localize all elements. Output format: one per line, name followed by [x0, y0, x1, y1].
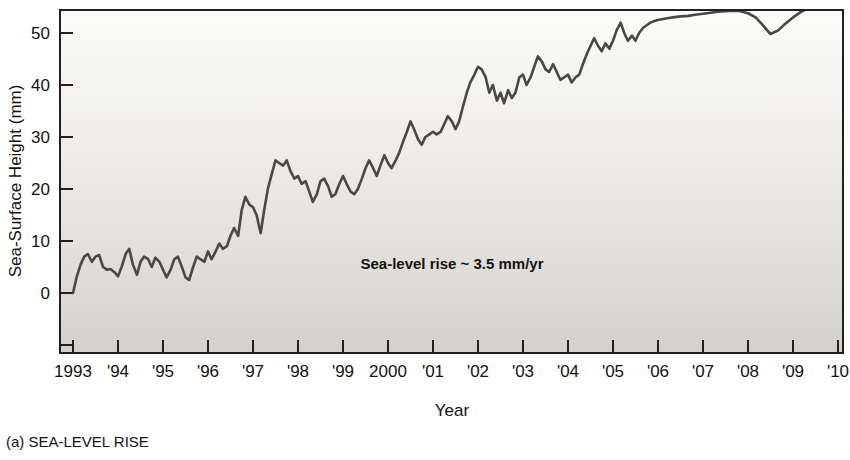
x-axis-tick-label: '09 [782, 362, 804, 381]
x-axis-tick-label: '99 [332, 362, 354, 381]
x-axis-tick-label: '06 [647, 362, 669, 381]
x-axis-tick-label: '94 [107, 362, 129, 381]
x-axis-tick-label: 2000 [369, 362, 407, 381]
y-axis-tick-label: 50 [31, 24, 50, 43]
x-axis-tick-label: '10 [827, 362, 849, 381]
x-axis-tick-label: '01 [422, 362, 444, 381]
y-axis-tick-label: 0 [41, 284, 50, 303]
x-axis-tick-label: '05 [602, 362, 624, 381]
x-axis-tick-label: '98 [287, 362, 309, 381]
plot-background [61, 11, 842, 352]
x-axis-tick-label: 1993 [54, 362, 92, 381]
y-axis-tick-label: 10 [31, 232, 50, 251]
x-axis-tick-label: '04 [557, 362, 579, 381]
x-axis-tick-label: '97 [242, 362, 264, 381]
y-axis-tick-label: 20 [31, 180, 50, 199]
y-axis-tick-labels: 01020304050 [31, 24, 50, 303]
x-axis-tick-label: '02 [467, 362, 489, 381]
y-axis-tick-label: 30 [31, 128, 50, 147]
x-axis-title: Year [435, 401, 470, 420]
x-axis-tick-label: '03 [512, 362, 534, 381]
sea-level-rise-chart: 01020304050 1993'94'95'96'97'98'992000'0… [0, 0, 850, 460]
figure-caption: (a) SEA-LEVEL RISE [6, 433, 149, 450]
x-axis-tick-label: '07 [692, 362, 714, 381]
sea-level-rise-figure: 01020304050 1993'94'95'96'97'98'992000'0… [0, 0, 850, 460]
sea-level-rise-rate-annotation: Sea-level rise ~ 3.5 mm/yr [360, 255, 543, 272]
x-axis-tick-labels: 1993'94'95'96'97'98'992000'01'02'03'04'0… [54, 362, 849, 381]
x-axis-tick-label: '96 [197, 362, 219, 381]
x-axis-tick-label: '95 [152, 362, 174, 381]
x-axis-tick-label: '08 [737, 362, 759, 381]
y-axis-title: Sea-Surface Height (mm) [6, 85, 25, 278]
y-axis-tick-label: 40 [31, 76, 50, 95]
